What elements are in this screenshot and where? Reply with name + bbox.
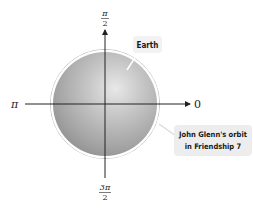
orbit-callout-line2: in Friendship 7: [185, 142, 242, 151]
polar-diagram: 0 π π 2 3π 2 Earth John Glenn's orbit in…: [0, 0, 253, 209]
label-pi-over-2-num: π: [101, 9, 108, 18]
label-pi-over-2-den: 2: [102, 19, 107, 28]
earth-callout-text: Earth: [137, 41, 159, 50]
label-pi: π: [10, 98, 19, 111]
label-3pi-over-2-num: 3π: [100, 183, 111, 192]
orbit-leader-line: [159, 124, 176, 136]
label-3pi-over-2-den: 2: [102, 193, 107, 202]
orbit-callout-line1: John Glenn's orbit: [178, 130, 248, 139]
label-0: 0: [194, 98, 201, 111]
